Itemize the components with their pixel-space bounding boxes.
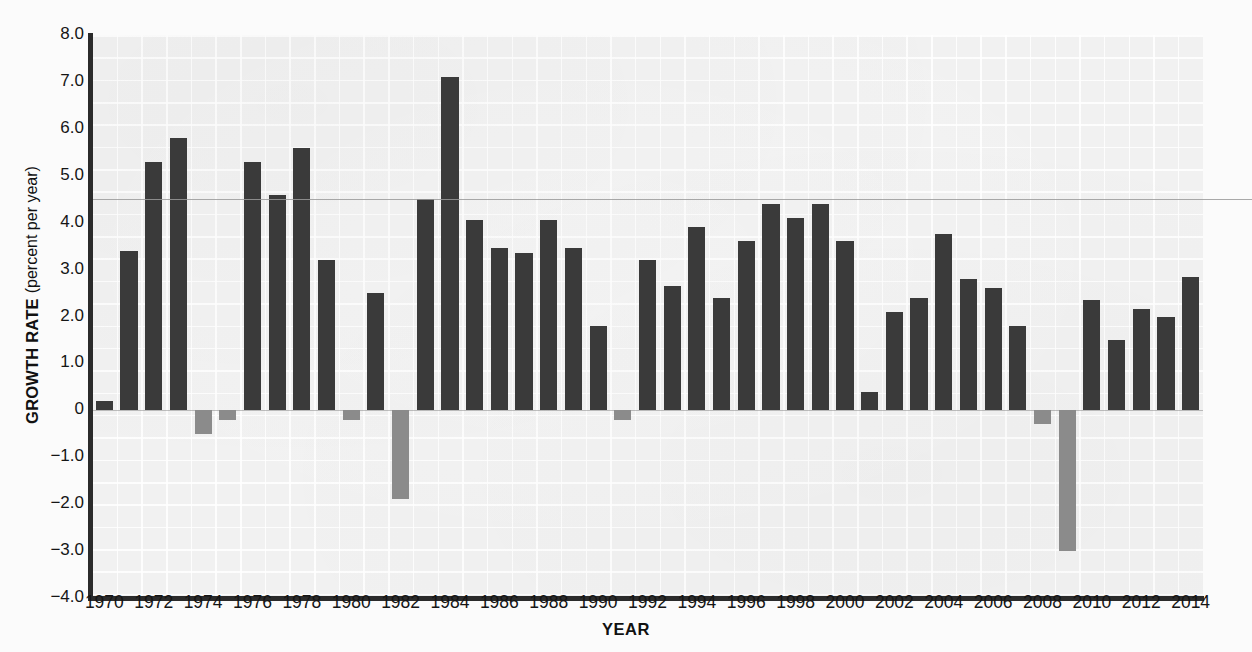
bar-1971 bbox=[120, 251, 137, 411]
x-tick-label: 1982 bbox=[381, 592, 420, 613]
x-tick-label: 1980 bbox=[332, 592, 371, 613]
bar-1983 bbox=[417, 199, 434, 410]
x-tick-label: 2014 bbox=[1171, 592, 1210, 613]
bar-1991 bbox=[614, 410, 631, 419]
bar-2013 bbox=[1157, 317, 1174, 411]
bar-2005 bbox=[960, 279, 977, 410]
x-tick-label: 1976 bbox=[233, 592, 272, 613]
y-axis-label: GROWTH RATE (percent per year) bbox=[19, 15, 45, 575]
x-tick-label: 1978 bbox=[282, 592, 321, 613]
bar-1984 bbox=[441, 77, 458, 410]
bar-2010 bbox=[1083, 300, 1100, 410]
bar-1990 bbox=[590, 326, 607, 410]
bar-2002 bbox=[886, 312, 903, 411]
x-tick-label: 2004 bbox=[924, 592, 963, 613]
bar-2006 bbox=[985, 288, 1002, 410]
x-tick-label: 1970 bbox=[85, 592, 124, 613]
bar-2003 bbox=[910, 298, 927, 411]
bar-1992 bbox=[639, 260, 656, 410]
bar-1997 bbox=[762, 204, 779, 410]
bar-1993 bbox=[664, 286, 681, 410]
bar-1977 bbox=[269, 195, 286, 411]
bar-1981 bbox=[367, 293, 384, 410]
y-tick-label: 5.0 bbox=[22, 165, 84, 185]
bar-2004 bbox=[935, 234, 952, 410]
x-tick-label: 2010 bbox=[1072, 592, 1111, 613]
x-tick-label: 1992 bbox=[628, 592, 667, 613]
x-tick-label: 1986 bbox=[480, 592, 519, 613]
x-tick-label: 2012 bbox=[1122, 592, 1161, 613]
bar-2009 bbox=[1059, 410, 1076, 551]
x-tick-label: 2002 bbox=[875, 592, 914, 613]
x-tick-label: 2008 bbox=[1023, 592, 1062, 613]
y-tick-label: 1.0 bbox=[22, 352, 84, 372]
bar-2007 bbox=[1009, 326, 1026, 410]
bar-1974 bbox=[195, 410, 212, 433]
y-tick-label: 4.0 bbox=[22, 212, 84, 232]
bar-2008 bbox=[1034, 410, 1051, 424]
y-axis-spine bbox=[88, 33, 93, 600]
x-tick-label: 1972 bbox=[134, 592, 173, 613]
y-tick-label: 2.0 bbox=[22, 306, 84, 326]
y-tick-label: −1.0 bbox=[22, 446, 84, 466]
bar-1975 bbox=[219, 410, 236, 419]
chart-figure: GROWTH RATE (percent per year) 8.07.06.0… bbox=[0, 0, 1252, 652]
y-tick-label: 7.0 bbox=[22, 71, 84, 91]
bar-1972 bbox=[145, 162, 162, 411]
bar-2014 bbox=[1182, 277, 1199, 411]
x-tick-label: 2000 bbox=[826, 592, 865, 613]
bar-series bbox=[92, 35, 1203, 598]
bar-1976 bbox=[244, 162, 261, 411]
bar-2012 bbox=[1133, 309, 1150, 410]
bar-1995 bbox=[713, 298, 730, 411]
x-tick-label: 1996 bbox=[727, 592, 766, 613]
y-tick-label: −4.0 bbox=[22, 587, 84, 607]
bar-1979 bbox=[318, 260, 335, 410]
bar-1973 bbox=[170, 138, 187, 410]
bar-1982 bbox=[392, 410, 409, 499]
y-tick-label: 3.0 bbox=[22, 259, 84, 279]
bar-2011 bbox=[1108, 340, 1125, 410]
bar-1994 bbox=[688, 227, 705, 410]
y-tick-label: 0 bbox=[22, 399, 84, 419]
bar-1978 bbox=[293, 148, 310, 411]
y-tick-label: −3.0 bbox=[22, 540, 84, 560]
x-tick-label: 1994 bbox=[677, 592, 716, 613]
bar-1980 bbox=[343, 410, 360, 419]
y-tick-label: 6.0 bbox=[22, 118, 84, 138]
x-tick-label: 2006 bbox=[974, 592, 1013, 613]
x-tick-label: 1990 bbox=[579, 592, 618, 613]
plot-area bbox=[92, 35, 1203, 598]
bar-1987 bbox=[515, 253, 532, 410]
x-tick-label: 1974 bbox=[184, 592, 223, 613]
bar-1999 bbox=[812, 204, 829, 410]
x-axis-label: YEAR bbox=[0, 620, 1252, 639]
y-tick-label: −2.0 bbox=[22, 493, 84, 513]
bar-1970 bbox=[96, 401, 113, 410]
bar-1998 bbox=[787, 218, 804, 410]
bar-1986 bbox=[491, 248, 508, 410]
bar-1996 bbox=[738, 241, 755, 410]
bar-2001 bbox=[861, 392, 878, 411]
x-tick-label: 1984 bbox=[431, 592, 470, 613]
bar-1985 bbox=[466, 220, 483, 410]
bar-1989 bbox=[565, 248, 582, 410]
x-tick-label: 1998 bbox=[776, 592, 815, 613]
bar-1988 bbox=[540, 220, 557, 410]
x-tick-label: 1988 bbox=[529, 592, 568, 613]
y-tick-label: 8.0 bbox=[22, 24, 84, 44]
bar-2000 bbox=[836, 241, 853, 410]
